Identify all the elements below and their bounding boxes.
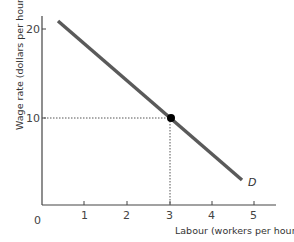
demand-chart: 0 1 2 3 4 5 20 10 Labour (workers per ho… bbox=[0, 0, 294, 242]
x-tick-label-1: 1 bbox=[81, 209, 88, 222]
x-tick-label-3: 3 bbox=[166, 209, 173, 222]
curve-label-d: D bbox=[248, 176, 256, 189]
x-axis-title: Labour (workers per hour) bbox=[175, 225, 294, 236]
origin-label: 0 bbox=[34, 214, 41, 227]
x-tick-label-5: 5 bbox=[250, 209, 257, 222]
x-tick-label-2: 2 bbox=[123, 209, 130, 222]
y-tick-label-20: 20 bbox=[26, 23, 40, 36]
y-tick-label-10: 10 bbox=[26, 112, 40, 125]
y-axis-title: Wage rate (dollars per hour) bbox=[14, 0, 25, 130]
demand-curve bbox=[58, 21, 242, 180]
equilibrium-point bbox=[167, 114, 175, 122]
x-tick-label-4: 4 bbox=[208, 209, 215, 222]
